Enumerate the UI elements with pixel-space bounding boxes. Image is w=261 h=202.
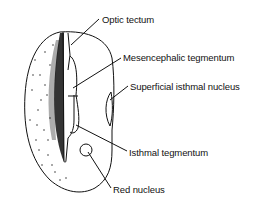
brain-section-diagram: Optic tectum Mesencephalic tegmentum Sup…	[0, 0, 261, 202]
label-isthmal-tegmentum: Isthmal tegmentum	[129, 147, 208, 158]
label-superficial-isthmal-nucleus: Superficial isthmal nucleus	[130, 81, 240, 92]
leader-red-nucleus	[88, 152, 111, 188]
red-nucleus-circle	[80, 144, 92, 156]
ventricle-line	[63, 32, 74, 162]
label-red-nucleus: Red nucleus	[113, 184, 165, 195]
section-drawing	[0, 0, 261, 202]
label-mesencephalic-tegmentum: Mesencephalic tegmentum	[123, 52, 234, 63]
leader-isthmal-tegmentum	[76, 125, 127, 151]
tectum-inner-wall	[68, 33, 70, 70]
superficial-isthmal-nucleus-shape	[106, 92, 112, 126]
label-optic-tectum: Optic tectum	[102, 14, 154, 25]
leader-superficial-isthmal	[110, 86, 128, 100]
section-outline	[25, 32, 114, 192]
